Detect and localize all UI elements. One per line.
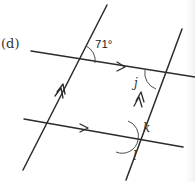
angle-l-label: l <box>133 149 137 163</box>
bottom-parallel-line <box>24 119 183 147</box>
angle-j-arc <box>145 70 156 89</box>
part-label: (d) <box>1 36 19 51</box>
double-arrow-icon <box>134 92 144 107</box>
angle-k-label: k <box>143 121 150 135</box>
angle-j-label: j <box>131 76 138 90</box>
single-arrow-icon <box>117 62 125 71</box>
left-transversal-line <box>23 5 107 170</box>
angle-71-label: 71° <box>95 38 112 50</box>
top-parallel-line <box>31 51 195 77</box>
parallel-lines-diagram: (d) 71° j k l <box>0 0 195 182</box>
